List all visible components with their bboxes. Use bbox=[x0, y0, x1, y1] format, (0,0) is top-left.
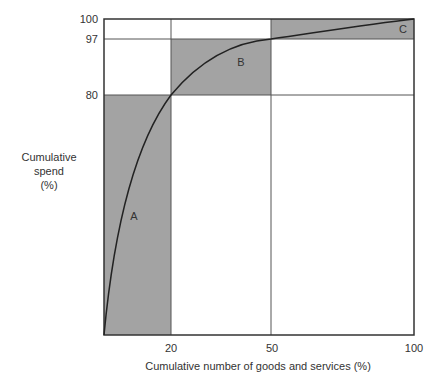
y-axis-label-line1: Cumulative bbox=[21, 151, 76, 163]
x-tick-100: 100 bbox=[405, 342, 423, 354]
y-tick-80: 80 bbox=[86, 89, 98, 101]
y-tick-97: 97 bbox=[86, 33, 98, 45]
abc-chart: A B C 100 97 80 20 50 100 Cumulative num… bbox=[0, 0, 441, 378]
region-c-label: C bbox=[399, 23, 407, 35]
region-b-area bbox=[171, 39, 271, 95]
region-b-label: B bbox=[237, 56, 244, 68]
x-tick-50: 50 bbox=[266, 342, 278, 354]
x-axis-label: Cumulative number of goods and services … bbox=[145, 360, 371, 372]
y-tick-100: 100 bbox=[80, 13, 98, 25]
x-tick-20: 20 bbox=[165, 342, 177, 354]
region-a-label: A bbox=[130, 210, 138, 222]
y-axis-label-line2: spend bbox=[34, 165, 64, 177]
y-axis-label-line3: (%) bbox=[40, 179, 57, 191]
